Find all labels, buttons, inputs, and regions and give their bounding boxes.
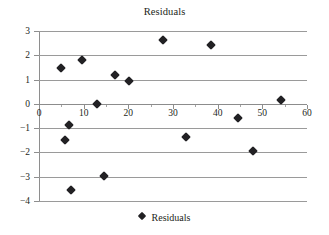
y-tick-3 — [34, 31, 39, 32]
chart-legend: Residuals — [0, 211, 329, 223]
x-tick-minor-45 — [240, 105, 241, 107]
x-tick-minor-5 — [61, 105, 62, 107]
gridline-y--3 — [39, 177, 307, 178]
x-tick-minor-15 — [106, 105, 107, 107]
x-axis-label-50: 50 — [249, 108, 275, 118]
y-tick--4 — [34, 201, 39, 202]
gridline-y--4 — [39, 201, 307, 202]
x-axis-label-30: 30 — [160, 108, 186, 118]
x-axis-label-0: 0 — [26, 108, 52, 118]
gridline-y-1 — [39, 80, 307, 81]
x-axis-label-10: 10 — [71, 108, 97, 118]
gridline-y-3 — [39, 31, 307, 32]
y-tick--2 — [34, 152, 39, 153]
chart-title: Residuals — [0, 6, 329, 17]
x-axis-label-60: 60 — [294, 108, 320, 118]
y-axis-label--3: −3 — [4, 172, 30, 182]
gridline-y--2 — [39, 152, 307, 153]
x-tick-minor-35 — [195, 105, 196, 107]
y-axis-label-1: 1 — [4, 75, 30, 85]
y-axis-label-2: 2 — [4, 50, 30, 60]
x-axis-label-40: 40 — [205, 108, 231, 118]
diamond-icon — [137, 212, 145, 220]
y-tick-2 — [34, 55, 39, 56]
y-axis-label--4: −4 — [4, 196, 30, 206]
gridline-y--1 — [39, 128, 307, 129]
legend-label-residuals: Residuals — [152, 212, 191, 223]
x-axis-label-20: 20 — [115, 108, 141, 118]
y-tick--3 — [34, 177, 39, 178]
y-axis-label--1: −1 — [4, 123, 30, 133]
residuals-scatter-chart: Residuals 3210−1−2−3−40102030405060 Resi… — [0, 0, 329, 235]
y-axis-label--2: −2 — [4, 147, 30, 157]
y-tick-1 — [34, 80, 39, 81]
y-tick--1 — [34, 128, 39, 129]
x-tick-minor-55 — [285, 105, 286, 107]
x-tick-minor-25 — [151, 105, 152, 107]
y-axis-label-3: 3 — [4, 26, 30, 36]
